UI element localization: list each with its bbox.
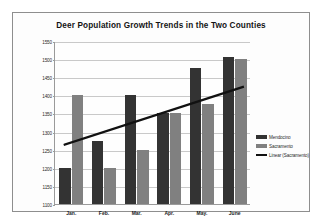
category-group: Feb. [88,42,121,204]
x-axis-tick-label: Apr. [153,210,186,216]
y-axis-tick-label: 1450 [42,76,52,81]
legend-item-sacramento[interactable]: Sacramento [256,142,322,150]
legend-label: Mendocino [269,135,291,140]
bar-mendocino[interactable] [157,113,169,204]
x-axis-tick-label: May. [186,210,219,216]
legend-swatch-icon [256,154,267,156]
bar-mendocino[interactable] [125,95,137,204]
category-group: Jan. [55,42,88,204]
chart-frame: Deer Population Growth Trends in the Two… [12,12,310,212]
legend-item-mendocino[interactable]: Mendocino [256,133,322,141]
bar-sacramento[interactable] [202,104,214,204]
y-axis-tick-label: 1150 [43,184,52,189]
x-axis-tick-label: Feb. [88,210,121,216]
y-axis-tick-mark [53,205,55,206]
bar-mendocino[interactable] [59,168,71,204]
x-axis-tick-label: June [218,210,251,216]
bar-sacramento[interactable] [235,59,247,204]
bar-sacramento[interactable] [170,113,182,204]
y-axis-tick-label: 1550 [42,40,52,45]
bar-mendocino[interactable] [190,68,202,204]
category-group: Mar. [120,42,153,204]
bar-sacramento[interactable] [137,150,149,204]
legend-swatch-icon [256,135,267,139]
bar-mendocino[interactable] [92,141,104,204]
y-axis-tick-label: 1500 [42,58,52,63]
y-axis-tick-label: 1300 [42,130,52,135]
category-group: June [218,42,251,204]
bar-sacramento[interactable] [72,95,84,204]
y-axis-tick-label: 1350 [42,112,52,117]
category-group: Apr. [153,42,186,204]
bar-mendocino[interactable] [223,57,235,204]
bars-layer: Jan.Feb.Mar.Apr.May.June [55,42,250,204]
y-axis-tick-label: 1250 [42,148,52,153]
y-axis-tick-label: 1400 [42,94,52,99]
legend-label: Sacramento [269,144,293,149]
plot-area: 1100115012001250130013501400145015001550… [54,42,250,205]
legend-item-trend[interactable]: Linear (Sacramento) [256,151,322,159]
chart-title: Deer Population Growth Trends in the Two… [13,21,309,30]
category-group: May. [186,42,219,204]
y-axis-tick-label: 1100 [43,203,52,208]
x-axis-tick-label: Jan. [55,210,88,216]
legend-label: Linear (Sacramento) [269,153,309,158]
chart-legend: MendocinoSacramentoLinear (Sacramento) [256,133,322,160]
x-axis-tick-label: Mar. [120,210,153,216]
y-axis-tick-label: 1200 [42,166,52,171]
bar-sacramento[interactable] [104,168,116,204]
legend-swatch-icon [256,144,267,148]
